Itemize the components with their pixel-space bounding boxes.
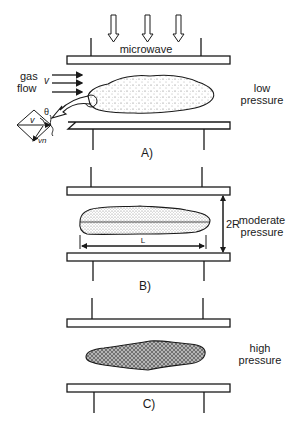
moderate-label: moderate xyxy=(239,214,285,226)
low-label: low xyxy=(254,82,271,94)
panel-b: L 2R moderate pressure B) xyxy=(67,167,285,293)
angle-theta-label: θ xyxy=(44,107,49,117)
vector-v-label: v xyxy=(30,115,35,125)
top-electrode-b xyxy=(67,167,230,195)
panel-c: high pressure C) xyxy=(67,298,281,413)
plasma-diagram: microwave gas flow v v θ xyxy=(0,0,296,427)
plasma-high-pressure xyxy=(86,341,205,370)
panel-a-label: A) xyxy=(141,146,153,160)
panel-a: microwave gas flow v v θ xyxy=(17,15,283,160)
microwave-label: microwave xyxy=(120,43,173,55)
velocity-symbol: v xyxy=(44,75,50,86)
pressure-label-c: pressure xyxy=(239,354,282,366)
plasma-low-pressure xyxy=(88,75,214,113)
magnify-arrow-icon xyxy=(52,96,90,118)
vector-vn-label: vn xyxy=(38,136,47,145)
pressure-label-a: pressure xyxy=(241,94,284,106)
plasma-moderate-pressure xyxy=(80,206,210,234)
gas-flow-arrows-icon xyxy=(52,75,82,92)
top-electrode-c xyxy=(67,298,230,327)
pressure-label-b: pressure xyxy=(241,226,284,238)
length-label: L xyxy=(141,236,146,245)
flow-label: flow xyxy=(17,82,37,94)
microwave-arrows-icon xyxy=(108,15,184,42)
panel-c-label: C) xyxy=(143,397,156,411)
panel-b-label: B) xyxy=(139,279,151,293)
gas-label: gas xyxy=(20,70,38,82)
high-label: high xyxy=(250,342,271,354)
bottom-electrode-b xyxy=(67,253,230,281)
